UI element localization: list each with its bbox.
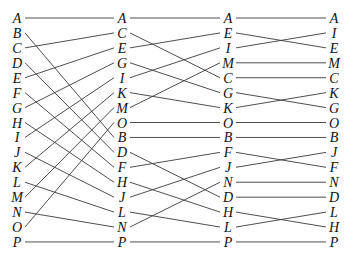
label-stage-2-j: J: [225, 160, 232, 175]
label-stage-0-f: F: [12, 86, 22, 101]
label-stage-0-e: E: [12, 71, 22, 86]
label-stage-3-f: F: [329, 160, 339, 175]
label-stage-3-i: I: [331, 26, 338, 41]
label-stage-3-a: A: [329, 11, 339, 26]
wire-i-stage1-to-2: [130, 48, 220, 78]
label-stage-3-o: O: [329, 116, 339, 131]
label-stage-1-f: F: [117, 160, 127, 175]
label-stage-1-n: N: [116, 220, 127, 235]
label-stage-1-m: M: [115, 101, 129, 116]
label-stage-2-h: H: [222, 205, 234, 220]
label-stage-3-d: D: [328, 190, 339, 205]
wire-c-stage1-to-2: [130, 33, 220, 78]
label-stage-0-a: A: [12, 11, 22, 26]
wire-n-stage0-to-1: [25, 212, 114, 227]
label-stage-3-b: B: [330, 130, 339, 145]
wire-m-stage0-to-1: [25, 108, 114, 198]
wire-i-stage0-to-1: [25, 78, 114, 138]
label-stage-2-p: P: [223, 235, 233, 250]
wire-k-stage1-to-2: [130, 93, 220, 108]
label-stage-1-o: O: [117, 116, 127, 131]
label-stage-1-d: D: [116, 145, 127, 160]
label-stage-1-p: P: [117, 235, 127, 250]
connection-lines: [25, 18, 326, 242]
node-labels: ABCDEFGHIJKLMNOPACEGIKMOBDFHJLNPAEIMCGKO…: [10, 11, 341, 250]
label-stage-2-n: N: [222, 175, 233, 190]
wire-f-stage1-to-2: [130, 152, 220, 167]
wire-n-stage1-to-2: [130, 182, 220, 227]
label-stage-0-h: H: [11, 116, 23, 131]
label-stage-0-p: P: [12, 235, 22, 250]
label-stage-0-o: O: [12, 220, 22, 235]
label-stage-0-d: D: [11, 56, 22, 71]
label-stage-2-l: L: [223, 220, 232, 235]
label-stage-3-h: H: [328, 220, 340, 235]
label-stage-0-i: I: [14, 130, 21, 145]
wire-l-stage0-to-1: [25, 182, 114, 212]
label-stage-1-c: C: [117, 26, 127, 41]
label-stage-2-m: M: [221, 56, 235, 71]
wire-o-stage0-to-1: [25, 123, 114, 228]
label-stage-3-l: L: [329, 205, 338, 220]
label-stage-0-j: J: [14, 145, 21, 160]
label-stage-2-d: D: [222, 190, 233, 205]
label-stage-1-b: B: [118, 130, 127, 145]
label-stage-1-h: H: [116, 175, 128, 190]
label-stage-2-e: E: [223, 26, 233, 41]
shuffle-network-diagram: ABCDEFGHIJKLMNOPACEGIKMOBDFHJLNPAEIMCGKO…: [0, 0, 354, 258]
label-stage-2-o: O: [223, 116, 233, 131]
label-stage-0-l: L: [12, 175, 21, 190]
label-stage-2-g: G: [223, 86, 233, 101]
label-stage-0-k: K: [11, 160, 22, 175]
wire-e-stage1-to-2: [130, 33, 220, 48]
label-stage-3-j: J: [331, 145, 338, 160]
label-stage-1-j: J: [119, 190, 126, 205]
wire-m-stage1-to-2: [130, 63, 220, 108]
label-stage-1-k: K: [116, 86, 127, 101]
label-stage-2-b: B: [224, 130, 233, 145]
wire-e-stage0-to-1: [25, 48, 114, 78]
label-stage-1-a: A: [117, 11, 127, 26]
wire-g-stage1-to-2: [130, 63, 220, 93]
label-stage-3-p: P: [329, 235, 339, 250]
label-stage-3-e: E: [329, 41, 339, 56]
wire-g-stage0-to-1: [25, 63, 114, 108]
label-stage-1-e: E: [117, 41, 127, 56]
wire-h-stage1-to-2: [130, 182, 220, 212]
label-stage-2-a: A: [223, 11, 233, 26]
wire-l-stage1-to-2: [130, 212, 220, 227]
label-stage-0-g: G: [12, 101, 22, 116]
label-stage-2-k: K: [222, 101, 233, 116]
label-stage-0-m: M: [10, 190, 24, 205]
label-stage-1-i: I: [119, 71, 126, 86]
label-stage-1-g: G: [117, 56, 127, 71]
wire-j-stage1-to-2: [130, 167, 220, 197]
label-stage-3-g: G: [329, 101, 339, 116]
label-stage-2-i: I: [225, 41, 232, 56]
label-stage-3-m: M: [327, 56, 341, 71]
wire-d-stage1-to-2: [130, 152, 220, 197]
label-stage-3-k: K: [328, 86, 339, 101]
wire-c-stage0-to-1: [25, 33, 114, 48]
label-stage-0-n: N: [11, 205, 22, 220]
label-stage-0-b: B: [13, 26, 22, 41]
label-stage-3-n: N: [328, 175, 339, 190]
label-stage-2-f: F: [223, 145, 233, 160]
label-stage-1-l: L: [117, 205, 126, 220]
label-stage-0-c: C: [12, 41, 22, 56]
label-stage-2-c: C: [223, 71, 233, 86]
label-stage-3-c: C: [329, 71, 339, 86]
